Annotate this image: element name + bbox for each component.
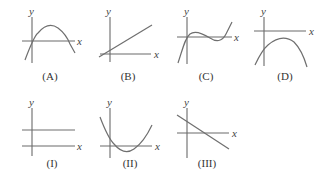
- x-axis-label: x: [308, 25, 314, 37]
- y-axis-label: y: [105, 5, 111, 17]
- y-axis-label: y: [183, 5, 189, 17]
- panel-label: (B): [121, 70, 136, 83]
- x-axis-label: x: [153, 48, 159, 60]
- panel-ii: y x (II): [100, 96, 160, 170]
- panel-label: (I): [47, 157, 58, 170]
- x-axis-label: x: [231, 127, 237, 139]
- y-axis-label: y: [260, 5, 266, 17]
- panel-label: (C): [199, 70, 214, 83]
- panel-b: y x (B): [99, 5, 159, 83]
- panel-c: y x (C): [177, 5, 239, 83]
- x-axis-label: x: [76, 35, 82, 47]
- panel-label: (D): [277, 70, 293, 83]
- panel-label: (II): [123, 157, 138, 170]
- panel-a: y x (A): [22, 5, 82, 83]
- graphs-diagram: y x (A) y x (B) y x (C) y x (D) y x (I): [0, 0, 328, 172]
- y-axis-label: y: [28, 96, 34, 108]
- curve-d: [255, 38, 307, 67]
- x-axis-label: x: [76, 140, 82, 152]
- curve-iii: [177, 115, 229, 149]
- curve-b: [99, 25, 152, 57]
- x-axis-label: x: [233, 31, 239, 43]
- curve-c: [178, 22, 232, 63]
- panel-iii: y x (III): [177, 96, 237, 170]
- x-axis-label: x: [154, 140, 160, 152]
- panel-d: y x (D): [254, 5, 314, 83]
- y-axis-label: y: [28, 5, 34, 17]
- panel-label: (A): [42, 70, 58, 83]
- y-axis-label: y: [183, 96, 189, 108]
- y-axis-label: y: [106, 96, 112, 108]
- panel-label: (III): [198, 157, 217, 170]
- panel-i: y x (I): [22, 96, 82, 170]
